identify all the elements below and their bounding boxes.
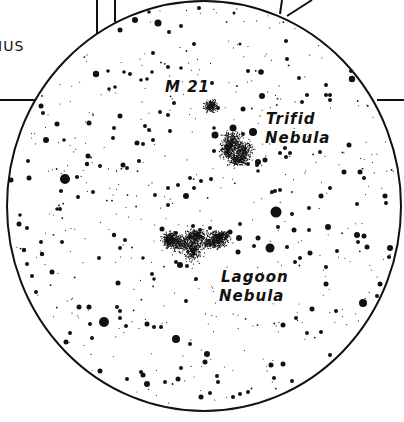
constellation-label: IUS [0, 38, 24, 54]
lagoon-label-line1: Lagoon [221, 270, 289, 285]
trifid-label-line2: Nebula [265, 131, 330, 146]
m21-label: M 21 [165, 80, 210, 95]
lagoon-label-line2: Nebula [219, 289, 284, 304]
star-chart [0, 0, 404, 422]
trifid-label-line1: Trifid [266, 112, 316, 127]
field-of-view-circle [7, 1, 401, 411]
